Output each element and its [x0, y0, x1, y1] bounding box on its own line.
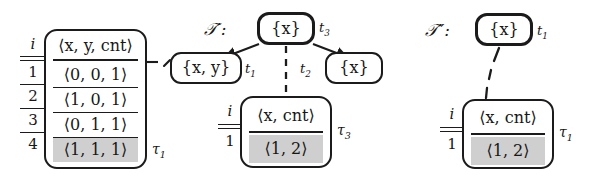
- tau1-label-subscript: 1: [160, 149, 166, 160]
- relation-box-tau1: ⟨x, y, cnt⟩ ⟨0, 0, 1⟩ ⟨1, 0, 1⟩ ⟨0, 1, 1…: [44, 29, 147, 169]
- tau1-index-cell: 1: [28, 61, 38, 84]
- tree-double-prime-root-node: {x}: [475, 13, 533, 46]
- tau1-right-index-cell: 1: [447, 132, 457, 155]
- tau3-header-double-rule: [249, 131, 323, 133]
- tau1-right-label-symbol: τ: [559, 124, 567, 140]
- dashed-link-root-to-tau1-right-3: [486, 88, 487, 98]
- tau1-right-label: τ1: [559, 125, 573, 142]
- tau1-label-symbol: τ: [152, 141, 160, 157]
- table-row-highlighted: ⟨1, 2⟩: [471, 137, 545, 165]
- table-row: ⟨0, 1, 1⟩: [53, 113, 138, 137]
- relation-box-tau1-right: ⟨x, cnt⟩ ⟨1, 2⟩: [462, 99, 554, 169]
- tau1-right-header-double-rule: [471, 133, 545, 135]
- tree-prime-label: 𝒯′:: [204, 21, 227, 38]
- tau3-label-subscript: 3: [345, 130, 351, 141]
- tau1-index-cell: 2: [28, 85, 38, 108]
- tree-prime-root-label: {x}: [271, 21, 300, 37]
- figure-canvas: i 1 2 3 4 ⟨x, y, cnt⟩ ⟨0, 0, 1⟩ ⟨1, 0, 1…: [0, 0, 596, 183]
- tau1-index-column: i 1 2 3 4: [20, 34, 46, 155]
- tree-prime-child-xy-label: {x, y}: [182, 60, 231, 76]
- tau1-header: ⟨x, y, cnt⟩: [53, 35, 138, 57]
- tree-prime-child-x-tag-subscript: 2: [305, 69, 311, 79]
- tau3-label: τ3: [337, 123, 351, 140]
- tree-prime-child-xy-tag-subscript: 1: [250, 69, 256, 79]
- tree-double-prime-root-tag-subscript: 1: [542, 31, 548, 41]
- tau1-right-index-header: i: [450, 104, 455, 127]
- tree-prime-child-x-tag: t2: [300, 62, 311, 78]
- table-row-highlighted: ⟨1, 2⟩: [249, 135, 323, 163]
- tau1-header-double-rule: [53, 59, 138, 61]
- tau1-index-cell: 3: [28, 109, 38, 132]
- tree-prime-child-xy-tag: t1: [245, 62, 256, 78]
- tau1-index-cell: 4: [28, 133, 38, 155]
- tau3-index-header: i: [228, 101, 233, 124]
- tau3-index-cell: 1: [225, 129, 235, 152]
- tree-double-prime-label: 𝒯″:: [425, 22, 450, 39]
- tau1-label: τ1: [152, 142, 166, 159]
- relation-box-tau3: ⟨x, cnt⟩ ⟨1, 2⟩: [240, 96, 332, 168]
- tau3-header: ⟨x, cnt⟩: [249, 102, 323, 129]
- table-row: ⟨0, 0, 1⟩: [53, 63, 138, 87]
- dashed-link-root-to-tau1-right: [494, 48, 499, 61]
- tree-prime-child-node-xy: {x, y}: [170, 52, 242, 84]
- tau1-right-index-column: i 1: [440, 104, 464, 155]
- tau3-label-symbol: τ: [337, 122, 345, 138]
- dashed-link-root-to-tau1-right-2: [489, 70, 491, 79]
- table-row-highlighted: ⟨1, 1, 1⟩: [53, 138, 138, 162]
- table-row: ⟨1, 0, 1⟩: [53, 88, 138, 112]
- tau1-right-header: ⟨x, cnt⟩: [471, 105, 545, 131]
- tree-prime-root-tag-subscript: 3: [324, 28, 330, 38]
- tau1-right-label-subscript: 1: [567, 132, 573, 143]
- tree-double-prime-root-tag: t1: [537, 24, 548, 40]
- tau1-index-header: i: [31, 34, 36, 56]
- tree-prime-child-node-x: {x}: [325, 52, 383, 84]
- tree-prime-child-x-label: {x}: [339, 60, 368, 76]
- tau3-index-column: i 1: [218, 101, 242, 152]
- tree-double-prime-root-label: {x}: [489, 22, 518, 38]
- tree-prime-root-node: {x}: [257, 12, 315, 45]
- tree-prime-root-tag: t3: [319, 21, 330, 37]
